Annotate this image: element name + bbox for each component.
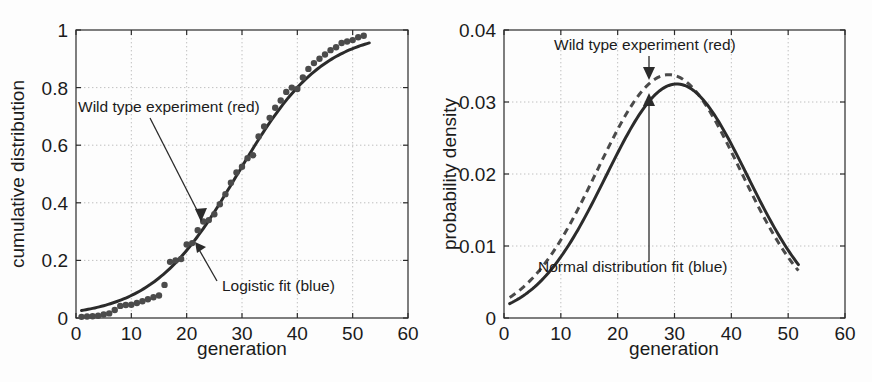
data-point	[361, 33, 367, 39]
data-point	[311, 60, 317, 66]
right-leader-wild-type	[643, 56, 655, 80]
data-point	[211, 211, 217, 217]
data-point	[139, 298, 145, 304]
data-point	[89, 313, 95, 319]
data-point	[150, 294, 156, 300]
right-y-axis-title: probability density	[439, 97, 460, 250]
data-point	[333, 44, 339, 50]
left-annotation-logistic-fit: Logistic fit (blue)	[222, 277, 335, 294]
x-tick-label: 20	[176, 323, 197, 344]
y-tick-label: 0.01	[459, 236, 496, 257]
data-point	[161, 282, 167, 288]
data-point	[123, 302, 129, 308]
y-tick-label: 0.02	[459, 164, 496, 185]
left-annotation-wild-type: Wild type experiment (red)	[78, 98, 260, 115]
data-point	[344, 38, 350, 44]
y-tick-label: 0	[485, 308, 496, 329]
data-point	[261, 123, 267, 129]
data-point	[266, 115, 272, 121]
data-point	[156, 292, 162, 298]
y-tick-label: 0.2	[42, 250, 68, 271]
right-leader-normal-fit	[643, 93, 655, 262]
x-tick-label: 0	[71, 323, 82, 344]
data-point	[78, 314, 84, 320]
data-point	[195, 227, 201, 233]
data-point	[189, 240, 195, 246]
data-point	[239, 164, 245, 170]
data-point	[255, 133, 261, 139]
right-x-axis-title: generation	[629, 338, 719, 359]
x-tick-label: 10	[550, 323, 571, 344]
y-tick-label: 0.4	[42, 193, 69, 214]
data-point	[272, 105, 278, 111]
x-tick-label: 50	[342, 323, 363, 344]
data-point	[100, 311, 106, 317]
data-point	[316, 56, 322, 62]
data-point	[338, 40, 344, 46]
y-tick-label: 0.04	[459, 20, 496, 41]
data-point	[244, 155, 250, 161]
panel-cumulative-distribution: 0102030405060 00.20.40.60.81 generation …	[0, 0, 436, 382]
data-point	[294, 86, 300, 92]
x-tick-label: 60	[834, 323, 855, 344]
data-point	[134, 300, 140, 306]
data-point	[222, 191, 228, 197]
logistic-fit-curve	[82, 43, 370, 311]
x-tick-label: 60	[397, 323, 418, 344]
left-plot-grid	[76, 30, 408, 318]
data-point	[305, 66, 311, 72]
data-point	[128, 302, 134, 308]
y-tick-label: 0.8	[42, 78, 68, 99]
x-tick-label: 20	[607, 323, 628, 344]
data-point	[322, 51, 328, 57]
y-tick-label: 0	[57, 308, 68, 329]
figure-two-panel-distribution-plots: 0102030405060 00.20.40.60.81 generation …	[0, 0, 872, 382]
data-point	[117, 303, 123, 309]
data-point	[106, 310, 112, 316]
right-annotation-wild-type: Wild type experiment (red)	[554, 36, 736, 53]
data-point	[300, 74, 306, 80]
data-point	[145, 296, 151, 302]
data-point	[278, 97, 284, 103]
panel-probability-density: 0102030405060 00.010.020.030.04 generati…	[436, 0, 872, 382]
data-point	[283, 89, 289, 95]
left-ytick-labels: 00.20.40.60.81	[42, 20, 69, 329]
x-tick-label: 40	[287, 323, 308, 344]
left-leader-wild-type	[150, 118, 207, 222]
data-point	[289, 84, 295, 90]
y-tick-label: 0.03	[459, 92, 496, 113]
data-point	[84, 313, 90, 319]
data-point	[206, 217, 212, 223]
data-point	[250, 152, 256, 158]
left-y-axis-title: cumulative distribution	[7, 80, 28, 268]
data-point	[95, 313, 101, 319]
x-tick-label: 10	[121, 323, 142, 344]
data-point	[183, 241, 189, 247]
x-tick-label: 40	[721, 323, 742, 344]
y-tick-label: 1	[57, 20, 68, 41]
data-point	[327, 47, 333, 53]
data-point	[167, 259, 173, 265]
data-point	[217, 201, 223, 207]
y-tick-label: 0.6	[42, 135, 68, 156]
x-tick-label: 0	[499, 323, 510, 344]
right-annotation-normal-fit: Normal distribution fit (blue)	[538, 258, 728, 275]
data-point	[233, 169, 239, 175]
data-point	[112, 307, 118, 313]
data-point	[172, 257, 178, 263]
data-point	[349, 37, 355, 43]
right-ytick-labels: 00.010.020.030.04	[459, 20, 496, 329]
data-point	[178, 256, 184, 262]
data-point	[355, 34, 361, 40]
left-leader-logistic-fit	[195, 242, 217, 281]
left-x-axis-title: generation	[197, 338, 287, 359]
data-point	[228, 179, 234, 185]
x-tick-label: 50	[778, 323, 799, 344]
